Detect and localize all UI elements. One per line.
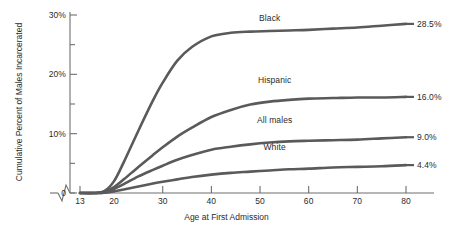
x-tick-label-13: 13 — [64, 196, 96, 206]
incarceration-cumulative-percent-chart: 010%20%30% 1320304050607080 BlackHispani… — [0, 0, 453, 233]
y-axis-title: Cumulative Percent of Males Incarcerated — [14, 17, 24, 187]
x-tick-label-40: 40 — [195, 196, 227, 206]
end-value-label-black: 28.5% — [417, 19, 442, 29]
y-axis-ticks — [70, 15, 77, 193]
series-label-white: White — [243, 142, 307, 152]
end-value-label-white: 4.4% — [417, 160, 437, 170]
x-tick-label-50: 50 — [244, 196, 276, 206]
x-tick-label-80: 80 — [390, 196, 422, 206]
x-tick-label-20: 20 — [98, 196, 130, 206]
x-tick-label-60: 60 — [293, 196, 325, 206]
y-tick-label-0: 0 — [30, 188, 66, 198]
y-tick-label-10: 10% — [30, 129, 66, 139]
series-label-black: Black — [238, 13, 302, 23]
x-tick-label-30: 30 — [147, 196, 179, 206]
end-value-label-hispanic: 16.0% — [417, 92, 442, 102]
series-label-all-males: All males — [243, 115, 307, 125]
series-label-hispanic: Hispanic — [243, 75, 307, 85]
chart-series-lines — [80, 24, 406, 193]
value-label-leaders — [406, 24, 414, 165]
x-axis-title: Age at First Admission — [0, 212, 453, 222]
y-tick-label-20: 20% — [30, 69, 66, 79]
y-tick-label-30: 30% — [30, 10, 66, 20]
x-tick-label-70: 70 — [341, 196, 373, 206]
end-value-label-all-males: 9.0% — [417, 132, 437, 142]
